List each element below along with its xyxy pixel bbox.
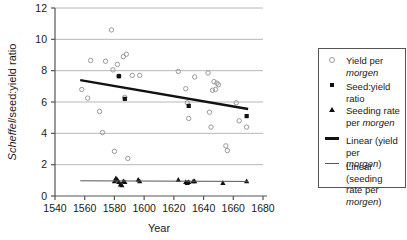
y-tick-label: 10 <box>35 33 47 45</box>
y-tick-label: 12 <box>35 2 47 14</box>
x-tick-label: 1620 <box>162 202 186 214</box>
legend-label: Seed:yield ratio <box>346 81 401 104</box>
data-point <box>109 28 113 32</box>
data-point <box>176 69 180 73</box>
data-point <box>130 73 134 77</box>
y-tick-label: 0 <box>41 190 47 202</box>
open-circle-icon <box>325 55 339 63</box>
data-point <box>126 156 130 160</box>
legend-item[interactable]: Seeding rate per morgen <box>325 105 401 128</box>
data-point <box>220 180 225 185</box>
y-tick-label: 2 <box>41 158 47 170</box>
data-point <box>210 88 214 92</box>
x-tick-label: 1600 <box>132 202 156 214</box>
y-tick-label: 4 <box>41 127 47 139</box>
data-point <box>213 87 217 91</box>
data-point <box>234 101 238 105</box>
data-point <box>115 62 119 66</box>
legend-label: Yield per morgen <box>346 55 401 78</box>
data-point <box>244 125 248 129</box>
trendlines <box>80 80 248 181</box>
data-point <box>121 54 125 58</box>
x-tick-label: 1560 <box>73 202 97 214</box>
legend-label: Seeding rate per morgen <box>346 105 400 128</box>
legend-item[interactable]: Linear (seeding rate per morgen) <box>325 161 401 207</box>
series-seed-yield-ratio <box>117 74 249 118</box>
y-axis-ticks: 024681012 <box>35 2 55 202</box>
data-point <box>187 104 191 108</box>
x-tick-label: 1540 <box>43 202 67 214</box>
data-point <box>137 73 141 77</box>
data-point <box>244 179 249 184</box>
y-axis-title: Scheffel/seed:yield ratio <box>6 44 18 161</box>
x-tick-label: 1580 <box>103 202 127 214</box>
thick-line-icon <box>325 135 339 140</box>
data-point <box>124 52 128 56</box>
data-point <box>184 86 188 90</box>
x-axis-title: Year <box>148 222 171 234</box>
legend-item[interactable]: Seed:yield ratio <box>325 81 401 104</box>
data-point <box>209 125 213 129</box>
data-point <box>237 119 241 123</box>
x-axis-ticks: 15401560158016001620164016601680 <box>43 196 275 214</box>
filled-triangle-icon <box>325 105 339 112</box>
data-point <box>112 149 116 153</box>
data-point <box>88 58 92 62</box>
data-point <box>245 114 249 118</box>
trendline <box>80 80 248 109</box>
legend-label: Linear (seeding rate per morgen) <box>346 161 401 207</box>
y-tick-label: 6 <box>41 96 47 108</box>
chart-figure: 024681012 154015601580160016201640166016… <box>0 0 407 240</box>
data-point <box>117 74 121 78</box>
data-point <box>100 130 104 134</box>
trendline <box>80 181 248 182</box>
data-point <box>85 96 89 100</box>
legend-item[interactable]: Yield per morgen <box>325 55 401 78</box>
data-point <box>97 109 101 113</box>
data-point <box>123 97 127 101</box>
data-point <box>80 87 84 91</box>
gridlines <box>55 8 263 165</box>
data-point <box>224 144 228 148</box>
thin-line-icon <box>325 161 339 164</box>
y-tick-label: 8 <box>41 64 47 76</box>
data-point <box>187 116 191 120</box>
data-point <box>111 68 115 72</box>
x-tick-label: 1640 <box>192 202 216 214</box>
x-tick-label: 1660 <box>222 202 246 214</box>
data-point <box>207 110 211 114</box>
data-point <box>192 75 196 79</box>
data-point <box>225 148 229 152</box>
filled-square-icon <box>325 81 339 87</box>
legend: Yield per morgenSeed:yield ratioSeeding … <box>318 48 406 188</box>
data-point <box>103 59 107 63</box>
x-tick-label: 1680 <box>251 202 275 214</box>
data-point <box>206 71 210 75</box>
